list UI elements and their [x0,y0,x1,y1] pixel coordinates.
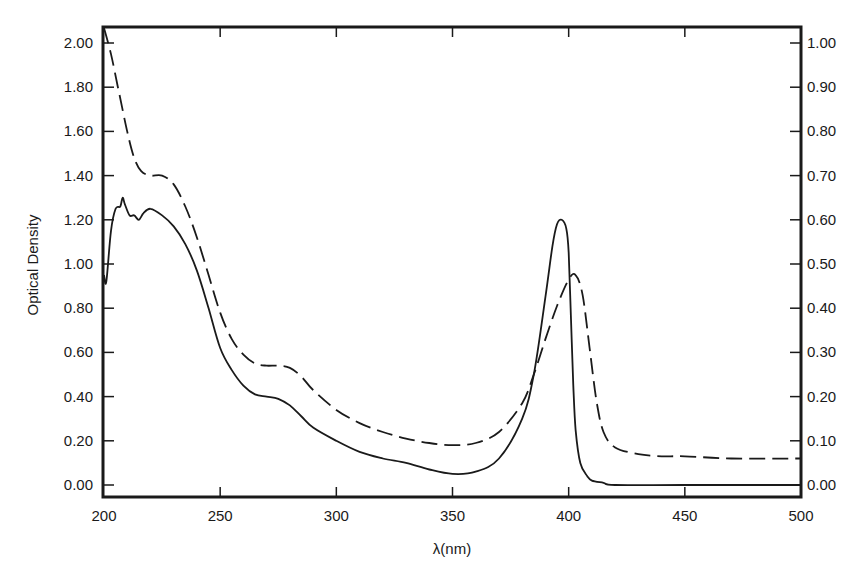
right-y-tick-label: 1.00 [807,34,836,51]
left-y-tick-label: 1.80 [64,78,93,95]
x-tick-label: 300 [324,507,349,524]
left-y-tick-label: 1.60 [64,122,93,139]
right-y-tick-label: 0.30 [807,343,836,360]
x-tick-label: 400 [556,507,581,524]
left-y-tick-label: 0.60 [64,343,93,360]
x-axis-ticks: 200250300350400450500 [91,27,813,524]
right-y-tick-label: 0.40 [807,299,836,316]
right-y-tick-label: 0.20 [807,388,836,405]
absorption-spectrum-chart: 200250300350400450500 0.000.200.400.600.… [0,0,863,576]
solid-series-line [104,198,801,486]
right-y-tick-label: 0.90 [807,78,836,95]
left-y-axis-ticks: 0.000.200.400.600.801.001.201.401.601.80… [64,34,114,493]
x-axis-title: λ(nm) [433,540,471,557]
plot-frame [103,27,801,497]
right-y-tick-label: 0.70 [807,167,836,184]
right-y-tick-label: 0.60 [807,211,836,228]
x-tick-label: 350 [440,507,465,524]
y-axis-title: Optical Density [24,214,41,315]
left-y-tick-label: 0.20 [64,432,93,449]
left-y-tick-label: 1.20 [64,211,93,228]
left-y-tick-label: 0.80 [64,299,93,316]
x-tick-label: 200 [91,507,116,524]
dashed-series-line [104,28,801,459]
x-tick-label: 450 [672,507,697,524]
left-y-tick-label: 2.00 [64,34,93,51]
right-y-tick-label: 0.80 [807,122,836,139]
left-y-tick-label: 0.40 [64,388,93,405]
data-series [104,28,801,485]
right-y-tick-label: 0.50 [807,255,836,272]
right-y-tick-label: 0.00 [807,476,836,493]
left-y-tick-label: 1.00 [64,255,93,272]
left-y-tick-label: 1.40 [64,167,93,184]
x-tick-label: 500 [788,507,813,524]
right-y-tick-label: 0.10 [807,432,836,449]
x-tick-label: 250 [208,507,233,524]
left-y-tick-label: 0.00 [64,476,93,493]
right-y-axis-ticks: 0.000.100.200.300.400.500.600.700.800.90… [790,34,836,493]
